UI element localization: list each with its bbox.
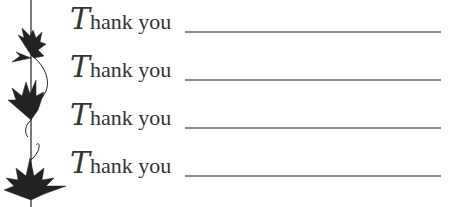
signature-line xyxy=(185,79,441,81)
signature-line xyxy=(185,31,441,33)
leaf-vine-ornament xyxy=(0,0,70,207)
thank-you-label: Thank you xyxy=(70,1,171,36)
signature-line xyxy=(185,175,441,177)
thank-you-row-1: Thank you xyxy=(70,4,466,44)
thank-you-row-3: Thank you xyxy=(70,100,466,140)
thank-you-label: Thank you xyxy=(70,97,171,132)
signature-line xyxy=(185,127,441,129)
thank-you-row-4: Thank you xyxy=(70,148,466,188)
thank-you-label: Thank you xyxy=(70,49,171,84)
thank-you-row-2: Thank you xyxy=(70,52,466,92)
thank-you-label: Thank you xyxy=(70,145,171,180)
